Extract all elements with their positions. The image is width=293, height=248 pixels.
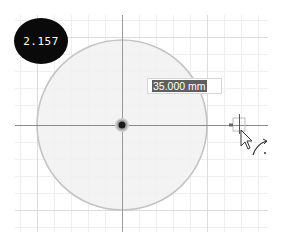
scale-badge-value: 2.157 xyxy=(23,35,59,48)
center-point[interactable] xyxy=(115,118,129,132)
diameter-dimension-input[interactable]: 35.000 mm xyxy=(147,78,222,94)
scale-badge: 2.157 xyxy=(14,18,68,64)
diameter-value-selected[interactable]: 35.000 mm xyxy=(152,80,207,92)
arrow-cursor-with-arc-icon xyxy=(229,114,267,155)
